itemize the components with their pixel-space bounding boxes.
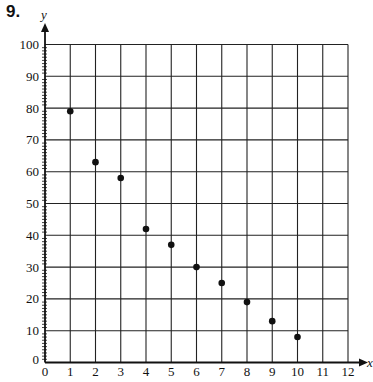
data-point — [92, 159, 99, 166]
x-tick-label: 8 — [244, 364, 251, 379]
data-point — [67, 108, 74, 115]
x-tick-label: 4 — [143, 364, 150, 379]
x-tick-label: 7 — [219, 364, 226, 379]
y-tick-label: 90 — [26, 69, 39, 84]
y-tick-label: 10 — [26, 323, 39, 338]
y-tick-label: 20 — [26, 291, 39, 306]
x-tick-label: 12 — [342, 364, 355, 379]
y-axis-label: y — [39, 7, 47, 22]
y-axis-arrow-icon — [41, 23, 49, 32]
data-point — [218, 280, 225, 287]
y-tick-label: 50 — [26, 196, 39, 211]
data-points — [67, 108, 301, 340]
x-tick-label: 11 — [316, 364, 329, 379]
x-tick-label: 2 — [92, 364, 99, 379]
x-axis-label: x — [366, 355, 373, 370]
x-tick-label: 3 — [118, 364, 125, 379]
data-point — [244, 299, 251, 306]
x-tick-label: 9 — [269, 364, 276, 379]
axes — [41, 23, 368, 367]
y-tick-label: 40 — [26, 228, 39, 243]
x-tick-label: 0 — [42, 364, 49, 379]
data-point — [193, 264, 200, 271]
x-tick-labels: 0123456789101112 — [42, 364, 355, 379]
y-tick-label: 70 — [26, 132, 39, 147]
y-tick-label: 0 — [33, 352, 40, 367]
y-tick-labels: 0102030405060708090100 — [20, 37, 40, 367]
scatter-chart: 0123456789101112 0102030405060708090100 … — [0, 0, 373, 382]
grid-lines — [45, 45, 348, 363]
data-point — [294, 334, 301, 341]
x-tick-label: 5 — [168, 364, 175, 379]
data-point — [143, 226, 150, 233]
data-point — [168, 242, 175, 249]
x-tick-label: 10 — [291, 364, 304, 379]
data-point — [269, 318, 276, 325]
x-tick-label: 6 — [193, 364, 200, 379]
y-tick-label: 30 — [26, 260, 39, 275]
y-tick-label: 80 — [26, 101, 39, 116]
y-tick-label: 60 — [26, 164, 39, 179]
y-tick-label: 100 — [20, 37, 40, 52]
x-tick-label: 1 — [67, 364, 74, 379]
data-point — [117, 175, 124, 182]
